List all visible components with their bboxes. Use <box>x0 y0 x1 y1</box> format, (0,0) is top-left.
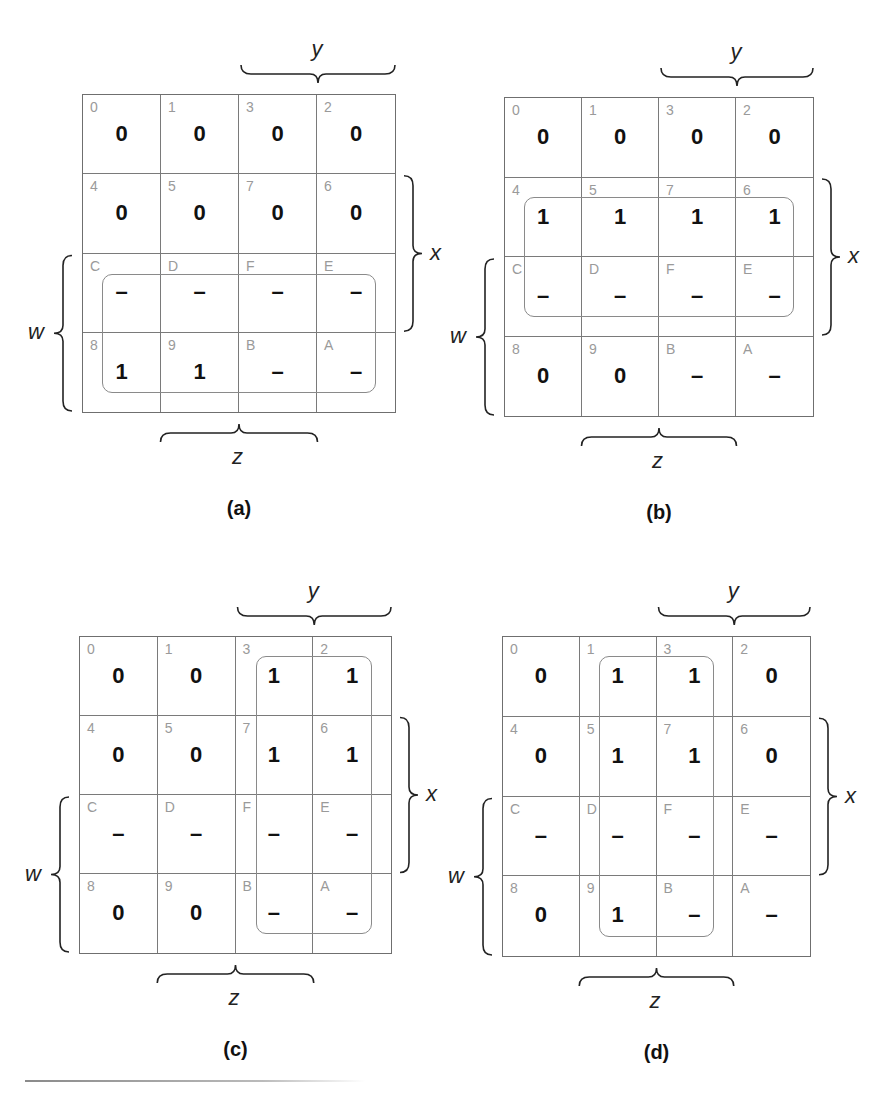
kmap-cell: A– <box>317 333 395 412</box>
cell-value: 0 <box>736 124 813 150</box>
cell-index: F <box>246 258 255 274</box>
cell-value: – <box>736 283 813 309</box>
cell-index: C <box>87 799 97 815</box>
kmap-cell: 91 <box>161 333 239 412</box>
cell-index: 5 <box>168 178 176 194</box>
cell-value: 1 <box>236 663 313 689</box>
cell-index: F <box>666 261 675 277</box>
kmap-cell: 00 <box>503 637 580 717</box>
cell-index: 3 <box>246 99 254 115</box>
kmap-cell: 00 <box>505 98 582 178</box>
label-x: x <box>430 240 441 266</box>
kmap-grid: 0011312040517160C–D–F–E–8091B–A– <box>502 636 811 957</box>
kmap-cell: E– <box>313 795 391 874</box>
kmap-cell: F– <box>659 257 736 337</box>
cell-index: D <box>165 799 175 815</box>
kmap-cell: B– <box>236 874 314 953</box>
label-z: z <box>232 444 243 470</box>
cell-index: F <box>243 799 252 815</box>
cell-index: 1 <box>165 641 173 657</box>
kmap-cell: 21 <box>313 637 391 716</box>
cell-index: 4 <box>90 178 98 194</box>
kmap-cell: 40 <box>83 174 161 253</box>
cell-value: 1 <box>582 204 658 230</box>
cell-value: – <box>659 363 735 389</box>
cell-value: – <box>239 279 316 305</box>
kmap-cell: 91 <box>580 876 657 956</box>
cell-index: 5 <box>587 721 595 737</box>
label-x: x <box>845 783 856 809</box>
cell-value: 0 <box>503 902 579 928</box>
cell-index: E <box>743 261 752 277</box>
kmap-cell: 71 <box>657 717 734 797</box>
cell-value: – <box>505 283 581 309</box>
kmap-cell: D– <box>158 795 236 874</box>
cell-index: 0 <box>90 99 98 115</box>
cell-index: 2 <box>320 641 328 657</box>
cell-value: 1 <box>580 663 656 689</box>
kmap-grid: 0010312140507161C–D–F–E–8090B–A– <box>79 636 392 954</box>
kmap-cell: 60 <box>317 174 395 253</box>
cell-value: 0 <box>83 200 160 226</box>
cell-value: 0 <box>659 124 735 150</box>
cell-value: 0 <box>317 121 395 147</box>
label-z: z <box>652 448 663 474</box>
map-caption: (c) <box>223 1038 247 1061</box>
cell-value: 0 <box>582 124 658 150</box>
kmap-cell: 50 <box>161 174 239 253</box>
kmap-cell: 51 <box>582 178 659 258</box>
cell-value: 0 <box>80 742 157 768</box>
cell-value: 1 <box>657 663 733 689</box>
kmap-cell: 10 <box>158 637 236 716</box>
label-w: w <box>450 323 466 349</box>
kmap-cell: F– <box>657 797 734 877</box>
cell-value: 0 <box>505 124 581 150</box>
kmap-cell: B– <box>659 337 736 417</box>
cell-value: 0 <box>239 200 316 226</box>
cell-value: – <box>736 363 813 389</box>
kmap-cell: F– <box>236 795 314 874</box>
cell-value: – <box>317 279 395 305</box>
cell-value: – <box>657 823 733 849</box>
label-w: w <box>448 863 464 889</box>
cell-index: 2 <box>743 102 751 118</box>
bottom-rule-divider <box>25 1080 365 1082</box>
cell-value: – <box>733 823 810 849</box>
cell-value: – <box>161 279 238 305</box>
kmap-cell: 31 <box>657 637 734 717</box>
cell-index: 3 <box>243 641 251 657</box>
cell-value: 1 <box>236 742 313 768</box>
cell-index: 9 <box>165 878 173 894</box>
cell-value: – <box>582 283 658 309</box>
cell-value: 1 <box>659 204 735 230</box>
cell-value: 0 <box>158 663 235 689</box>
cell-value: – <box>659 283 735 309</box>
cell-index: 2 <box>324 99 332 115</box>
cell-index: 5 <box>589 182 597 198</box>
kmap-cell: 81 <box>83 333 161 412</box>
label-y: y <box>312 36 323 62</box>
cell-index: 3 <box>664 641 672 657</box>
cell-index: 4 <box>512 182 520 198</box>
kmap-cell: 80 <box>505 337 582 417</box>
kmap-cell: C– <box>503 797 580 877</box>
kmap-cell: D– <box>582 257 659 337</box>
cell-value: 1 <box>580 902 656 928</box>
label-y: y <box>731 39 742 65</box>
cell-index: 0 <box>510 641 518 657</box>
kmap-cell: 00 <box>83 95 161 174</box>
cell-index: A <box>324 337 333 353</box>
label-w: w <box>28 319 44 345</box>
cell-value: 0 <box>503 743 579 769</box>
cell-index: C <box>90 258 100 274</box>
kmap-cell: 80 <box>80 874 158 953</box>
cell-index: D <box>168 258 178 274</box>
cell-value: 1 <box>83 359 160 385</box>
cell-index: 6 <box>740 721 748 737</box>
kmap-cell: 10 <box>582 98 659 178</box>
cell-value: 0 <box>158 742 235 768</box>
cell-value: 1 <box>313 742 391 768</box>
cell-value: – <box>313 821 391 847</box>
cell-value: – <box>317 359 395 385</box>
cell-value: 1 <box>161 359 238 385</box>
